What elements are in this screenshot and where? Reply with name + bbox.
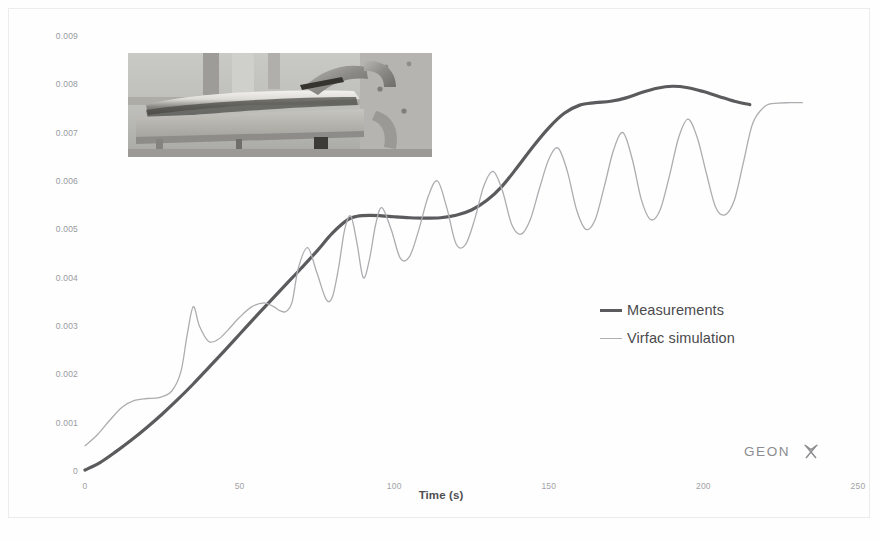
geonx-wordmark-text: GEON xyxy=(744,444,790,459)
geonx-logo: GEON xyxy=(744,441,830,463)
x-axis-tick-label: 150 xyxy=(541,481,556,491)
x-axis-title: Time (s) xyxy=(381,489,501,501)
y-axis-tick-label: 0.001 xyxy=(32,418,78,428)
x-axis-tick-label: 50 xyxy=(235,481,245,491)
welded-plate-clamp-photo xyxy=(128,53,432,157)
y-axis-tick-label: 0.004 xyxy=(32,273,78,283)
y-axis-tick-label: 0 xyxy=(32,466,78,476)
legend-line-swatch-measurements xyxy=(600,309,622,312)
y-axis-tick-label: 0.006 xyxy=(32,176,78,186)
x-axis-tick-label: 250 xyxy=(851,481,866,491)
y-axis-tick-label: 0.005 xyxy=(32,224,78,234)
y-axis-tick-label: 0.008 xyxy=(32,79,78,89)
legend-label-measurements: Measurements xyxy=(627,302,724,318)
y-axis-tick-label: 0.003 xyxy=(32,321,78,331)
inset-photo-graphic xyxy=(128,53,432,157)
chart-legend: Measurements Virfac simulation xyxy=(600,296,815,352)
legend-label-virfac-simulation: Virfac simulation xyxy=(627,330,735,346)
y-axis-tick-label: 0.009 xyxy=(32,31,78,41)
chart-figure: 00.0010.0020.0030.0040.0050.0060.0070.00… xyxy=(0,0,880,541)
y-axis-tick-label: 0.002 xyxy=(32,369,78,379)
x-axis-tick-label: 200 xyxy=(696,481,711,491)
y-axis-tick-label: 0.007 xyxy=(32,128,78,138)
legend-item-measurements[interactable]: Measurements xyxy=(600,296,815,324)
geonx-wordmark-graphic: GEON xyxy=(744,441,830,463)
y-axis-tick-labels: 00.0010.0020.0030.0040.0050.0060.0070.00… xyxy=(26,0,78,541)
x-axis-tick-label: 0 xyxy=(83,481,88,491)
legend-item-virfac-simulation[interactable]: Virfac simulation xyxy=(600,324,815,352)
legend-line-swatch-virfac-simulation xyxy=(600,338,622,339)
